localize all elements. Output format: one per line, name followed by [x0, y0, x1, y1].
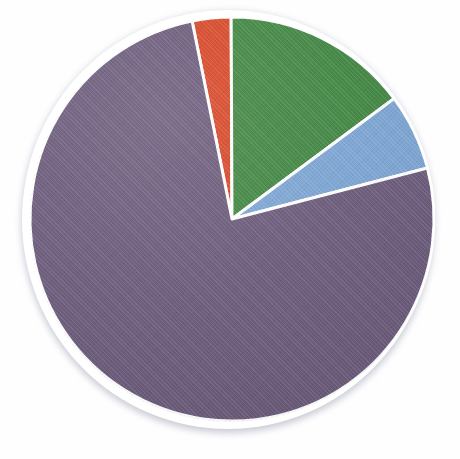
pie-chart-figure	[0, 0, 460, 459]
pie-slices-svg	[0, 0, 460, 459]
